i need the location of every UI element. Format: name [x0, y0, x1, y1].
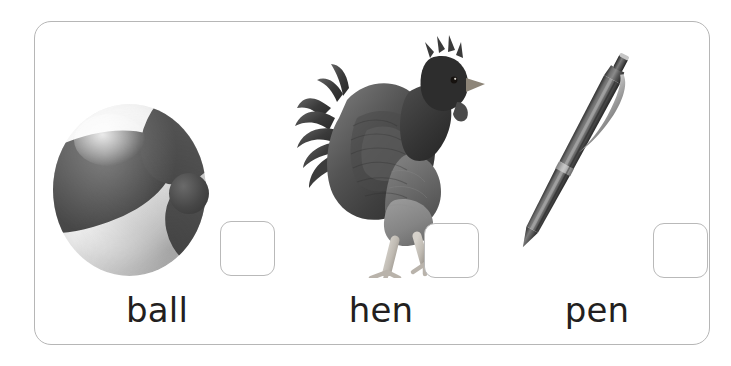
- pen-highlight: [530, 78, 613, 230]
- word-label-ball: ball: [35, 290, 279, 330]
- pen-group: [515, 51, 641, 256]
- word-label-hen: hen: [279, 290, 483, 330]
- worksheet-item-pen: pen: [483, 22, 711, 344]
- pen-image: [489, 24, 659, 278]
- word-label-pen: pen: [483, 290, 711, 330]
- worksheet-item-hen: hen: [279, 22, 483, 344]
- hen-comb: [425, 35, 463, 58]
- beach-ball-valve-icon: [169, 173, 209, 214]
- answer-box-hen[interactable]: [424, 223, 479, 278]
- answer-box-pen[interactable]: [653, 223, 708, 278]
- worksheet-item-ball: ball: [35, 22, 279, 344]
- hen-head: [420, 56, 468, 111]
- beach-ball-image: [53, 104, 206, 276]
- answer-box-ball[interactable]: [220, 221, 275, 276]
- worksheet-card: ball: [34, 21, 710, 345]
- hen-eye: [451, 77, 458, 84]
